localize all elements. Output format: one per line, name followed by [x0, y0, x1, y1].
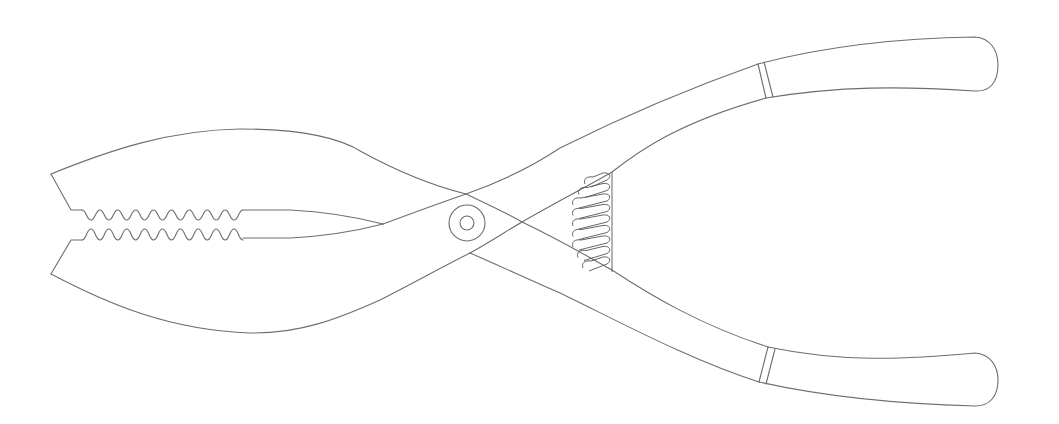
lower-handle: [759, 347, 998, 406]
upper-arm: [383, 64, 766, 253]
pliers-diagram: spring-loaded pliers with serrated jaws: [0, 0, 1059, 424]
pivot-rivet: [449, 205, 485, 241]
upper-handle: [758, 37, 998, 98]
lower-jaw: [51, 224, 470, 333]
pliers-drawing: [0, 0, 1059, 424]
lower-arm: [466, 194, 768, 382]
upper-jaw: [51, 129, 466, 224]
coil-spring-icon: [572, 172, 612, 272]
